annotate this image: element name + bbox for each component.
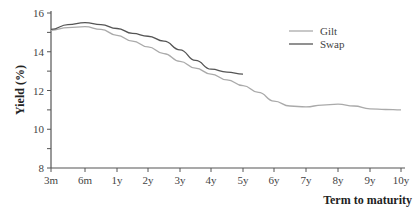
x-tick-label: 4y xyxy=(206,174,218,186)
y-tick-label: 12 xyxy=(33,85,44,97)
x-tick-label: 5y xyxy=(238,174,250,186)
legend-label-swap: Swap xyxy=(320,38,345,50)
y-tick-label: 8 xyxy=(39,162,45,174)
x-tick-label: 6m xyxy=(78,174,93,186)
x-tick-label: 1y xyxy=(112,174,124,186)
x-tick-label: 3y xyxy=(175,174,187,186)
x-tick-label: 8y xyxy=(333,174,345,186)
x-tick-label: 2y xyxy=(143,174,155,186)
y-tick-label: 10 xyxy=(33,123,45,135)
x-tick-label: 6y xyxy=(269,174,281,186)
x-tick-label: 3m xyxy=(44,174,59,186)
yield-curve-chart: 810121416 3m6m1y2y3y4y5y6y7y8y9y10y Yiel… xyxy=(0,0,419,222)
y-axis: 810121416 xyxy=(33,7,51,174)
series-layer xyxy=(51,23,401,110)
legend-label-gilt: Gilt xyxy=(320,25,337,37)
x-tick-label: 9y xyxy=(365,174,377,186)
legend: GiltSwap xyxy=(289,25,345,50)
series-line-swap xyxy=(51,23,243,74)
x-axis-label: Term to maturity xyxy=(323,193,412,207)
series-line-gilt xyxy=(51,27,401,110)
x-axis: 3m6m1y2y3y4y5y6y7y8y9y10y xyxy=(44,168,410,186)
y-tick-label: 14 xyxy=(33,46,45,58)
x-tick-label: 10y xyxy=(393,174,410,186)
x-tick-label: 7y xyxy=(301,174,313,186)
y-axis-label: Yield (%) xyxy=(13,65,27,115)
y-tick-label: 16 xyxy=(33,7,45,19)
